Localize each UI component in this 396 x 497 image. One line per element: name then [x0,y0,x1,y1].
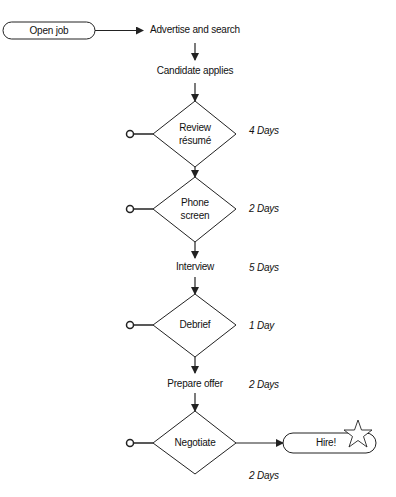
review-duration: 4 Days [249,125,279,136]
interview-label: Interview [176,261,214,273]
debrief-duration: 1 Day [249,320,274,331]
terminal-circle [127,440,134,447]
prepare-offer-duration: 2 Days [249,379,279,390]
hire-label: Hire! [316,437,336,449]
terminal-circle [127,322,134,329]
open-job-label: Open job [30,25,69,37]
debrief-label: Debrief [180,319,211,331]
phone-label-line1: Phone [181,197,209,209]
negotiate-label: Negotiate [174,437,215,449]
review-resume-decision [153,101,236,167]
review-label-line2: résumé [179,135,211,147]
terminal-circle [127,131,134,138]
negotiate-duration: 2 Days [249,470,279,481]
interview-duration: 5 Days [249,262,279,273]
phone-duration: 2 Days [249,203,279,214]
review-label-line1: Review [179,122,211,134]
candidate-applies-label: Candidate applies [157,65,234,77]
phone-label-line2: screen [181,210,210,222]
advertise-label: Advertise and search [150,24,240,36]
terminal-circle [127,206,134,213]
prepare-offer-label: Prepare offer [167,378,223,390]
